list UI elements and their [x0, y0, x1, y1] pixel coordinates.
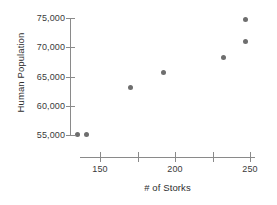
y-tick-label-65000: 65,000 [37, 72, 65, 82]
y-axis-title: Human Population [15, 18, 26, 128]
y-tick-label-75000: 75,000 [37, 13, 65, 23]
y-tick-label-60000: 60,000 [37, 101, 65, 111]
y-tick-label-70000: 70,000 [37, 42, 65, 52]
y-tick-70000 [66, 47, 75, 48]
x-axis-title: # of Storks [80, 182, 255, 193]
x-tick-175 [138, 152, 139, 162]
y-tick-75000 [66, 18, 75, 19]
data-point [84, 132, 89, 137]
x-tick-label-250: 250 [230, 164, 270, 174]
x-axis-line [80, 157, 255, 158]
y-tick-65000 [66, 77, 75, 78]
x-tick-225 [213, 152, 214, 162]
data-point [161, 70, 166, 75]
data-point [221, 55, 226, 60]
data-point [75, 132, 80, 137]
x-tick-200 [175, 152, 176, 162]
x-tick-label-150: 150 [80, 164, 120, 174]
x-tick-150 [100, 152, 101, 162]
data-point [243, 39, 248, 44]
data-point [128, 85, 133, 90]
y-tick-label-55000: 55,000 [37, 130, 65, 140]
x-tick-250 [250, 152, 251, 162]
y-tick-60000 [66, 106, 75, 107]
x-tick-label-200: 200 [155, 164, 195, 174]
scatter-chart: 55,00060,00065,00070,00075,000 150200250… [0, 0, 277, 205]
y-tick-55000 [66, 135, 75, 136]
data-point [243, 17, 248, 22]
